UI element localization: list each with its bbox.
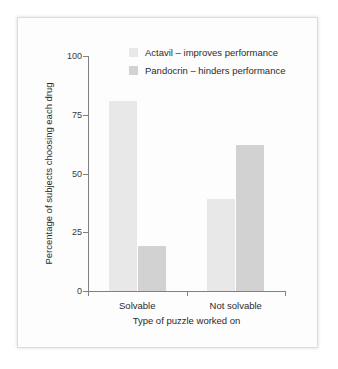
legend-swatch-pandocrin: [129, 66, 138, 75]
bar-not-solvable-series-1: [207, 199, 235, 291]
bar-solvable-series-1: [109, 101, 137, 291]
x-tick-mark: [285, 291, 286, 296]
y-axis-title: Percentage of subjects choosing each dru…: [43, 79, 54, 269]
x-tick-label: Not solvable: [187, 300, 286, 311]
y-tick-label: 0: [48, 287, 82, 296]
x-tick-label: Solvable: [88, 300, 187, 311]
legend-swatch-actavil: [129, 48, 138, 57]
legend-item-pandocrin: Pandocrin – hinders performance: [129, 63, 285, 78]
y-tick-mark: [83, 174, 88, 175]
bar-chart: 0255075100 SolvableNot solvable Type of …: [0, 0, 338, 369]
x-tick-mark: [187, 291, 188, 296]
x-tick-mark: [88, 291, 89, 296]
x-axis-title: Type of puzzle worked on: [88, 315, 285, 326]
legend-label-pandocrin: Pandocrin – hinders performance: [145, 65, 285, 76]
y-tick-label: 100: [48, 52, 82, 61]
legend-label-actavil: Actavil – improves performance: [145, 47, 278, 58]
y-tick-mark: [83, 56, 88, 57]
y-tick-mark: [83, 115, 88, 116]
y-tick-mark: [83, 232, 88, 233]
chart-legend: Actavil – improves performance Pandocrin…: [129, 45, 285, 81]
bar-not-solvable-series-2: [236, 145, 264, 291]
y-axis-line: [88, 56, 89, 292]
bar-solvable-series-2: [138, 246, 166, 291]
legend-item-actavil: Actavil – improves performance: [129, 45, 285, 60]
